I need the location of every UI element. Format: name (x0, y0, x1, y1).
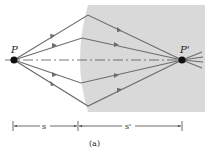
dimension-line (13, 121, 182, 131)
object-point (10, 56, 17, 63)
figure-caption: (a) (89, 139, 100, 148)
object-point-label: P (10, 44, 18, 55)
image-point-label: P' (179, 44, 189, 55)
image-point (178, 56, 185, 63)
refraction-diagram: P P' s s' (a) (0, 0, 207, 159)
distance-s-label: s (42, 122, 46, 131)
distance-s-prime-label: s' (125, 122, 131, 131)
